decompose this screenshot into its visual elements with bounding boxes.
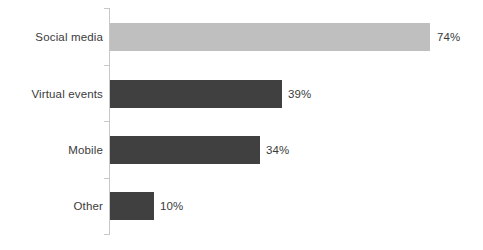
axis-tick [104, 8, 109, 9]
axis-tick [104, 178, 109, 179]
bar-row: Mobile 34% [0, 136, 483, 164]
value-label-virtual-events: 39% [288, 88, 311, 100]
bar-other[interactable] [110, 192, 154, 220]
category-label-virtual-events: Virtual events [31, 88, 103, 100]
bar-mobile[interactable] [110, 136, 260, 164]
bar-row: Other 10% [0, 192, 483, 220]
bar-virtual-events[interactable] [110, 80, 282, 108]
category-label-social-media: Social media [35, 31, 103, 43]
value-label-other: 10% [160, 200, 183, 212]
axis-tick [104, 65, 109, 66]
axis-tick [104, 234, 109, 235]
value-label-mobile: 34% [266, 144, 289, 156]
axis-tick [104, 121, 109, 122]
category-label-mobile: Mobile [68, 144, 103, 156]
bar-row: Virtual events 39% [0, 80, 483, 108]
bar-chart: Social media 74% Virtual events 39% Mobi… [0, 0, 483, 250]
category-label-other: Other [73, 200, 103, 212]
bar-social-media[interactable] [110, 23, 430, 51]
value-label-social-media: 74% [437, 31, 460, 43]
bar-row: Social media 74% [0, 23, 483, 51]
